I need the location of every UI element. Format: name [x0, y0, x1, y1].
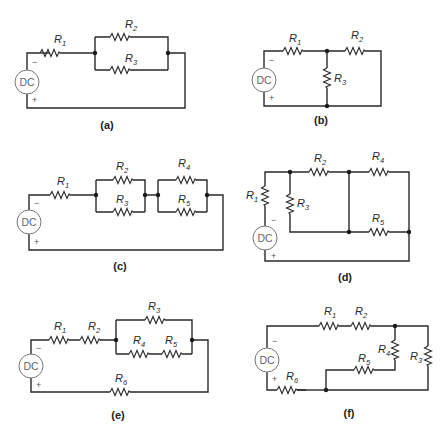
label-r1: R1	[289, 32, 301, 47]
caption-a: (a)	[100, 119, 114, 131]
junction-node	[325, 104, 329, 108]
resistor-r4	[176, 177, 196, 184]
caption-b: (b)	[314, 114, 328, 126]
junction-node	[407, 230, 411, 234]
resistor-r3	[287, 194, 294, 214]
label-r3: R3	[297, 197, 310, 212]
label-r5: R5	[165, 334, 178, 349]
resistor-r4	[129, 351, 149, 358]
circuit-e: DC − + R1 R2 R3 R4 R5 R6 (e)	[19, 300, 208, 421]
svg-text:DC: DC	[21, 216, 37, 228]
label-r3: R3	[410, 350, 423, 365]
svg-text:DC: DC	[23, 360, 39, 372]
junction-node	[166, 51, 170, 55]
resistor-r2	[351, 323, 371, 330]
label-r5: R5	[178, 193, 191, 208]
junction-node	[325, 49, 329, 53]
negative-terminal: −	[36, 343, 41, 353]
dc-source: DC	[17, 210, 41, 234]
label-r1: R1	[57, 175, 69, 190]
resistor-r5	[162, 351, 182, 358]
label-r1: R1	[54, 320, 66, 335]
circuit-b: DC − + R1 R2 R3 (b)	[252, 29, 381, 126]
junction-node	[288, 170, 292, 174]
resistor-r1	[49, 337, 69, 344]
junction-node	[393, 324, 397, 328]
resistor-r1	[283, 48, 303, 55]
positive-terminal: +	[272, 374, 277, 384]
label-r1: R1	[54, 33, 66, 48]
resistor-r1	[50, 192, 70, 199]
label-r2: R2	[88, 320, 101, 335]
svg-text:DC: DC	[259, 354, 275, 366]
circuit-c: DC − + R1 R2 R3 R4 R5 (c)	[17, 157, 223, 272]
label-r6: R6	[115, 372, 128, 387]
junction-node	[156, 193, 160, 197]
positive-terminal: +	[32, 95, 37, 105]
circuit-d: DC − + R1 R2 R3 R4 R5 (d)	[246, 150, 411, 283]
caption-e: (e)	[111, 409, 125, 421]
label-r4: R4	[378, 343, 390, 358]
negative-terminal: −	[32, 57, 37, 67]
caption-f: (f)	[344, 407, 355, 419]
label-r2: R2	[125, 18, 138, 33]
junction-node	[94, 193, 98, 197]
resistor-r3	[145, 317, 165, 324]
svg-text:DC: DC	[256, 74, 272, 86]
resistor-r3	[113, 209, 133, 216]
label-r5: R5	[372, 212, 385, 227]
dc-source: DC	[253, 226, 277, 250]
caption-c: (c)	[113, 260, 127, 272]
resistor-r2	[110, 34, 130, 41]
positive-terminal: +	[271, 251, 276, 261]
resistor-r5	[354, 367, 374, 374]
label-r6: R6	[286, 370, 299, 385]
resistor-r5	[176, 209, 196, 216]
junction-node	[143, 193, 147, 197]
resistor-r2	[113, 177, 133, 184]
label-r2: R2	[314, 152, 327, 167]
dc-source: DC	[19, 354, 43, 378]
negative-terminal: −	[34, 198, 39, 208]
caption-d: (d)	[338, 271, 352, 283]
resistor-r6	[110, 389, 130, 396]
junction-node	[190, 338, 194, 342]
resistor-r3	[425, 346, 432, 366]
label-r3: R3	[116, 193, 129, 208]
resistor-r2	[80, 337, 100, 344]
dc-source: DC	[255, 348, 279, 372]
circuit-figure: DC − + R1 R2 R3 (a) DC − + R1 R2 R3 (b)	[0, 0, 445, 435]
dc-source: DC	[252, 68, 276, 92]
label-r1: R1	[246, 189, 258, 204]
junction-node	[347, 230, 351, 234]
label-r4: R4	[372, 150, 384, 165]
label-r3: R3	[334, 72, 347, 87]
positive-terminal: +	[36, 380, 41, 390]
resistor-r3	[324, 68, 331, 88]
negative-terminal: −	[269, 55, 274, 65]
svg-text:DC: DC	[257, 232, 273, 244]
circuit-f: DC − + R1 R2 R3 R4 R5 R6 (f)	[255, 305, 432, 419]
resistor-r1	[319, 323, 339, 330]
junction-node	[114, 338, 118, 342]
resistor-r4	[392, 340, 399, 360]
resistor-r1	[262, 186, 269, 206]
resistor-r4	[369, 169, 389, 176]
resistor-r2	[345, 48, 365, 55]
negative-terminal: −	[271, 215, 276, 225]
junction-node	[347, 170, 351, 174]
junction-node	[93, 51, 97, 55]
negative-terminal: −	[272, 336, 277, 346]
resistor-r5	[369, 229, 389, 236]
label-r1: R1	[324, 305, 336, 320]
dc-source: DC	[15, 70, 39, 94]
label-r2: R2	[355, 305, 368, 320]
label-r2: R2	[351, 29, 364, 44]
label-r3: R3	[125, 52, 138, 67]
label-r2: R2	[116, 160, 129, 175]
label-r4: R4	[178, 157, 190, 172]
label-r3: R3	[148, 300, 161, 315]
junction-node	[324, 388, 328, 392]
svg-text:DC: DC	[19, 76, 35, 88]
label-r5: R5	[358, 352, 371, 367]
